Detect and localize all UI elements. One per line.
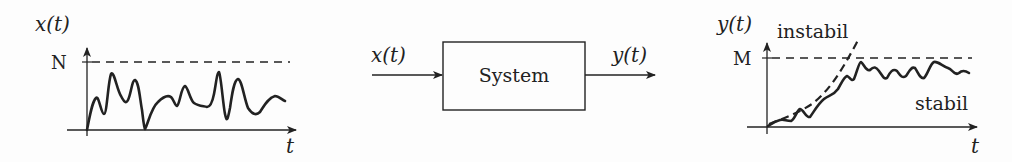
input-plot: x(t) N t bbox=[35, 12, 296, 158]
input-signal-curve bbox=[87, 72, 285, 130]
signal-system-diagram: x(t) N t x(t) System y(t) y(t) M instabi… bbox=[0, 0, 1012, 162]
input-bound-label-n: N bbox=[51, 52, 67, 73]
input-plot-xlabel: t bbox=[286, 134, 295, 158]
output-plot: y(t) M instabil stabil t bbox=[716, 12, 980, 158]
output-plot-ylabel: y(t) bbox=[716, 12, 752, 36]
input-plot-ylabel: x(t) bbox=[35, 12, 70, 36]
system-label: System bbox=[479, 64, 549, 86]
system-input-label: x(t) bbox=[371, 43, 406, 67]
system-output-label: y(t) bbox=[611, 43, 647, 67]
output-bound-label-m: M bbox=[733, 48, 751, 69]
unstable-label: instabil bbox=[777, 20, 848, 42]
output-plot-xlabel: t bbox=[971, 134, 980, 158]
stable-label: stabil bbox=[915, 92, 968, 114]
system-block-diagram: x(t) System y(t) bbox=[371, 42, 655, 110]
